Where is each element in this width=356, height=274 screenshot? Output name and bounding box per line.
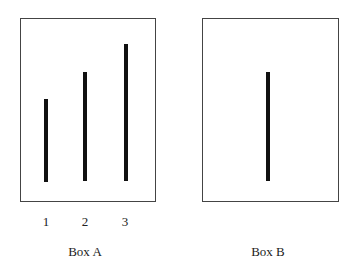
- box-b-caption: Box B: [228, 244, 308, 260]
- box-b: [202, 18, 339, 202]
- box-a-line-1: [44, 99, 48, 182]
- line-label-1: 1: [36, 214, 56, 230]
- box-a-line-2: [83, 72, 87, 181]
- line-label-2: 2: [75, 214, 95, 230]
- box-a-caption: Box A: [45, 244, 125, 260]
- box-a-line-3: [124, 44, 128, 181]
- box-a: [20, 18, 156, 202]
- box-b-line: [266, 72, 270, 181]
- line-label-3: 3: [115, 214, 135, 230]
